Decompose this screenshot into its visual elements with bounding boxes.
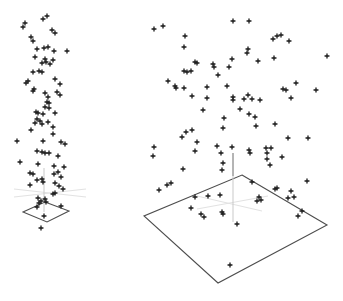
- data-point-marker: [286, 196, 290, 200]
- data-point-marker: [31, 39, 35, 43]
- data-point-marker: [56, 154, 60, 158]
- data-point-marker: [51, 58, 55, 62]
- data-point-marker: [294, 81, 298, 85]
- data-point-marker: [181, 167, 185, 171]
- data-point-marker: [51, 132, 55, 136]
- data-point-marker: [230, 145, 234, 149]
- data-point-marker: [53, 111, 57, 115]
- data-point-marker: [275, 34, 279, 38]
- data-point-marker: [182, 86, 186, 90]
- data-point-marker: [218, 193, 222, 197]
- data-point-marker: [215, 144, 219, 148]
- data-point-marker: [52, 49, 56, 53]
- data-point-marker: [206, 194, 210, 198]
- data-point-marker: [39, 226, 43, 230]
- data-point-marker: [220, 168, 224, 172]
- data-point-marker: [222, 116, 226, 120]
- data-point-marker: [46, 95, 50, 99]
- data-point-marker: [36, 196, 40, 200]
- data-point-marker: [169, 181, 173, 185]
- data-point-marker: [35, 47, 39, 51]
- data-point-marker: [29, 128, 33, 132]
- data-point-marker: [250, 97, 254, 101]
- data-point-marker: [45, 14, 49, 18]
- data-point-marker: [33, 55, 37, 59]
- data-point-marker: [58, 82, 62, 86]
- data-point-marker: [43, 105, 47, 109]
- data-point-marker: [255, 199, 259, 203]
- data-point-marker: [247, 19, 251, 23]
- data-point-marker: [33, 121, 37, 125]
- data-point-marker: [21, 25, 25, 29]
- data-point-marker: [43, 91, 47, 95]
- data-point-marker: [47, 106, 51, 110]
- floor-plane: [144, 175, 327, 283]
- scatter3d-large: [144, 19, 329, 283]
- scatter3d-small-points: [15, 14, 69, 230]
- data-point-marker: [247, 112, 251, 116]
- data-point-marker: [41, 17, 45, 21]
- data-point-marker: [231, 19, 235, 23]
- data-point-marker: [273, 122, 277, 126]
- data-point-marker: [246, 93, 250, 97]
- data-point-marker: [254, 124, 258, 128]
- data-point-marker: [15, 139, 19, 143]
- data-point-marker: [53, 31, 57, 35]
- data-point-marker: [325, 54, 329, 58]
- scatter3d-large-points: [151, 19, 329, 267]
- data-point-marker: [238, 107, 242, 111]
- data-point-marker: [230, 57, 234, 61]
- data-point-marker: [246, 47, 250, 51]
- data-point-marker: [286, 136, 290, 140]
- floor-axis-line: [197, 196, 262, 211]
- data-point-marker: [242, 97, 246, 101]
- data-point-marker: [253, 115, 257, 119]
- data-point-marker: [42, 46, 46, 50]
- data-point-marker: [289, 96, 293, 100]
- data-point-marker: [53, 181, 57, 185]
- data-point-marker: [41, 139, 45, 143]
- data-point-marker: [61, 187, 65, 191]
- data-point-marker: [59, 140, 63, 144]
- data-point-marker: [189, 69, 193, 73]
- data-point-marker: [231, 98, 235, 102]
- data-point-marker: [269, 146, 273, 150]
- data-point-marker: [28, 183, 32, 187]
- data-point-marker: [292, 195, 296, 199]
- data-point-marker: [157, 188, 161, 192]
- data-point-marker: [202, 215, 206, 219]
- data-point-marker: [46, 120, 50, 124]
- data-point-marker: [235, 222, 239, 226]
- data-point-marker: [199, 212, 203, 216]
- data-point-marker: [48, 62, 52, 66]
- scatter3d-small: [14, 14, 86, 230]
- data-point-marker: [62, 165, 66, 169]
- data-point-marker: [166, 79, 170, 83]
- data-point-marker: [258, 98, 262, 102]
- data-point-marker: [182, 45, 186, 49]
- data-point-marker: [190, 128, 194, 132]
- data-point-marker: [180, 135, 184, 139]
- data-point-marker: [42, 214, 46, 218]
- data-point-marker: [152, 27, 156, 31]
- data-point-marker: [165, 183, 169, 187]
- data-point-marker: [265, 157, 269, 161]
- data-point-marker: [51, 125, 55, 129]
- data-point-marker: [41, 112, 45, 116]
- data-point-marker: [272, 56, 276, 60]
- data-point-marker: [31, 70, 35, 74]
- data-point-marker: [190, 94, 194, 98]
- data-point-marker: [58, 93, 62, 97]
- data-point-marker: [271, 37, 275, 41]
- scatter3d-figure: [0, 0, 343, 301]
- data-point-marker: [195, 140, 199, 144]
- data-point-marker: [287, 39, 291, 43]
- data-point-marker: [40, 61, 44, 65]
- data-point-marker: [306, 136, 310, 140]
- data-point-marker: [225, 84, 229, 88]
- data-point-marker: [52, 164, 56, 168]
- data-point-marker: [205, 96, 209, 100]
- data-point-marker: [35, 178, 39, 182]
- data-point-marker: [189, 206, 193, 210]
- data-point-marker: [314, 88, 318, 92]
